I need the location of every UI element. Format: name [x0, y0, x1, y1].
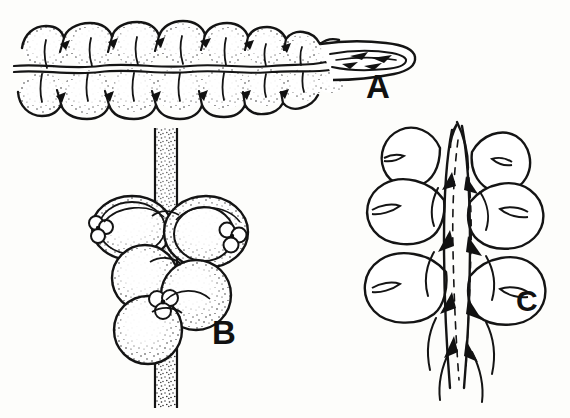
figure-artwork	[0, 0, 570, 418]
panel-label-b: B	[212, 316, 236, 349]
panel-label-a: A	[366, 70, 390, 103]
illustration-plate: A B C	[0, 0, 570, 418]
panel-label-c: C	[516, 286, 538, 316]
